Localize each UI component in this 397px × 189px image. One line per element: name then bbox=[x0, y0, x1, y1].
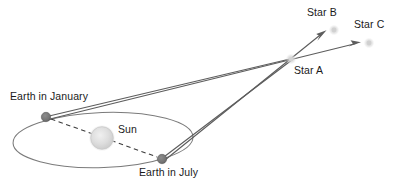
label-star-b: Star B bbox=[307, 7, 337, 18]
sight-line-january-to-star-c bbox=[48, 40, 361, 119]
label-sun: Sun bbox=[118, 124, 137, 135]
arrowhead-to-star-c bbox=[349, 40, 361, 46]
label-star-a: Star A bbox=[294, 65, 323, 76]
label-earth-in-january: Earth in January bbox=[10, 91, 88, 102]
parallax-diagram: Earth in January Sun Earth in July Star … bbox=[0, 0, 397, 189]
star-a-body bbox=[286, 54, 297, 65]
sight-line-july-to-star-b bbox=[165, 30, 327, 160]
arrowhead-to-star-b bbox=[316, 30, 326, 41]
star-c-body bbox=[364, 38, 375, 49]
earth-january-body bbox=[41, 112, 50, 121]
label-star-c: Star C bbox=[354, 19, 384, 30]
label-earth-in-july: Earth in July bbox=[139, 167, 198, 178]
star-b-body bbox=[329, 25, 340, 36]
earth-july-body bbox=[157, 154, 166, 163]
sun-body bbox=[89, 125, 114, 150]
